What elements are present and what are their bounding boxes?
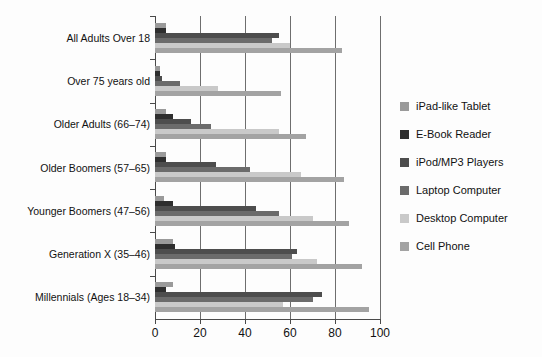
gridline-100 xyxy=(380,16,381,319)
x-axis-tick xyxy=(245,319,246,324)
bar-group xyxy=(155,103,380,146)
x-axis-tick-label: 60 xyxy=(283,326,296,340)
x-axis-tick xyxy=(335,319,336,324)
bar xyxy=(155,264,362,269)
legend-swatch-icon xyxy=(400,186,409,195)
category-label: All Adults Over 18 xyxy=(2,32,150,44)
x-axis-tick xyxy=(380,319,381,324)
bar-row xyxy=(155,177,380,182)
y-axis-tick xyxy=(150,146,156,147)
chart-legend: iPad-like TabletE-Book ReaderiPod/MP3 Pl… xyxy=(400,92,540,260)
bar xyxy=(155,134,306,139)
bar-group xyxy=(155,146,380,189)
category-label: Older Adults (66–74) xyxy=(2,118,150,130)
legend-item: Laptop Computer xyxy=(400,176,540,204)
bar-group xyxy=(155,276,380,319)
category-label: Younger Boomers (47–56) xyxy=(2,205,150,217)
legend-swatch-icon xyxy=(400,130,409,139)
category-label: Over 75 years old xyxy=(2,75,150,87)
x-axis: 020406080100 xyxy=(155,319,380,320)
bar xyxy=(155,91,281,96)
legend-label: Laptop Computer xyxy=(416,184,501,197)
legend-label: E-Book Reader xyxy=(416,128,491,141)
legend-swatch-icon xyxy=(400,102,409,111)
x-axis-tick-label: 20 xyxy=(193,326,206,340)
category-label: Generation X (35–46) xyxy=(2,248,150,260)
legend-swatch-icon xyxy=(400,158,409,167)
x-axis-tick-label: 40 xyxy=(238,326,251,340)
y-axis-tick xyxy=(150,103,156,104)
legend-swatch-icon xyxy=(400,214,409,223)
legend-label: Cell Phone xyxy=(416,240,470,253)
bar-row xyxy=(155,307,380,312)
bar-group xyxy=(155,232,380,275)
y-axis-tick xyxy=(150,16,156,17)
bar-row xyxy=(155,264,380,269)
plot-area xyxy=(155,16,380,319)
bar-row xyxy=(155,91,380,96)
x-axis-tick-label: 80 xyxy=(328,326,341,340)
chart-container: All Adults Over 18Over 75 years oldOlder… xyxy=(0,0,542,357)
category-label: Millennials (Ages 18–34) xyxy=(2,291,150,303)
legend-label: Desktop Computer xyxy=(416,212,508,225)
bar xyxy=(155,221,349,226)
bar xyxy=(155,307,369,312)
x-axis-tick-label: 100 xyxy=(370,326,390,340)
x-axis-tick xyxy=(290,319,291,324)
legend-item: iPad-like Tablet xyxy=(400,92,540,120)
y-axis-tick xyxy=(150,276,156,277)
bar-row xyxy=(155,221,380,226)
y-axis-tick xyxy=(150,189,156,190)
y-axis-category-labels: All Adults Over 18Over 75 years oldOlder… xyxy=(0,16,150,319)
legend-label: iPad-like Tablet xyxy=(416,100,490,113)
y-axis-tick xyxy=(150,59,156,60)
category-label: Older Boomers (57–65) xyxy=(2,162,150,174)
y-axis-tick xyxy=(150,232,156,233)
legend-swatch-icon xyxy=(400,242,409,251)
legend-item: Desktop Computer xyxy=(400,204,540,232)
bar-group xyxy=(155,59,380,102)
legend-item: Cell Phone xyxy=(400,232,540,260)
x-axis-tick-label: 0 xyxy=(152,326,159,340)
x-axis-tick xyxy=(200,319,201,324)
legend-item: E-Book Reader xyxy=(400,120,540,148)
bar-row xyxy=(155,48,380,53)
bar-group xyxy=(155,16,380,59)
x-axis-tick xyxy=(155,319,156,324)
bar xyxy=(155,177,344,182)
legend-label: iPod/MP3 Players xyxy=(416,156,503,169)
bar-group xyxy=(155,189,380,232)
legend-item: iPod/MP3 Players xyxy=(400,148,540,176)
bar-row xyxy=(155,134,380,139)
bar xyxy=(155,48,342,53)
